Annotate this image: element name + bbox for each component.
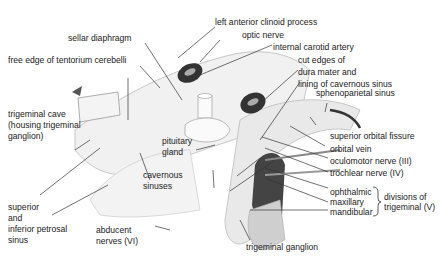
label-trigeminal-ganglion: trigeminal ganglion <box>246 242 318 252</box>
cavernous-sinus-diagram: left anterior clinoid process sellar dia… <box>0 0 440 266</box>
label-maxillary: maxillary <box>330 197 364 207</box>
label-cut-edges-line2: dura mater and <box>298 67 356 77</box>
label-trigeminal-cave-line1: trigeminal cave <box>8 109 66 119</box>
label-abducent-line2: nerves (VI) <box>96 236 138 246</box>
label-pituitary-line1: pituitary <box>162 136 192 146</box>
label-mandibular: mandibular <box>330 207 373 217</box>
label-trigeminal-cave-line3: ganglion) <box>8 131 43 141</box>
label-petrosal-line3: inferior petrosal <box>8 224 67 234</box>
label-petrosal-line2: and <box>8 213 22 223</box>
label-petrosal-line4: sinus <box>8 235 28 245</box>
label-divisions-line1: divisions of <box>384 192 427 202</box>
label-superior-orbital-fissure: superior orbital fissure <box>330 131 415 141</box>
label-left-anterior-clinoid-process: left anterior clinoid process <box>215 17 317 27</box>
label-optic-nerve: optic nerve <box>242 30 284 40</box>
label-orbital-vein: orbital vein <box>330 144 372 154</box>
label-sphenoparietal-sinus: sphenoparietal sinus <box>316 88 395 98</box>
label-oculomotor-nerve: oculomotor nerve (III) <box>330 156 412 166</box>
label-ophthalmic: ophthalmic <box>330 187 372 197</box>
label-internal-carotid-artery: internal carotid artery <box>273 42 354 52</box>
label-pituitary-line2: gland <box>162 147 183 157</box>
label-divisions-line2: trigeminal (V) <box>384 202 435 212</box>
label-sellar-diaphragm: sellar diaphragm <box>68 33 132 43</box>
label-petrosal-line1: superior <box>8 202 39 212</box>
label-cavernous-line2: sinuses <box>143 181 172 191</box>
label-free-edge-tentorium: free edge of tentorium cerebelli <box>8 55 126 65</box>
label-cavernous-line1: cavernous <box>143 170 183 180</box>
label-trochlear-nerve: trochlear nerve (IV) <box>330 168 404 178</box>
label-cut-edges-line1: cut edges of <box>298 55 345 65</box>
label-trigeminal-cave-line2: (housing trigeminal <box>8 120 81 130</box>
label-abducent-line1: abducent <box>96 225 131 235</box>
